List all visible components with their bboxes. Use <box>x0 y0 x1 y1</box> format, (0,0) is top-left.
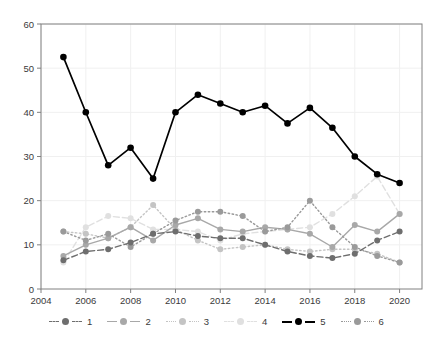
line-chart-svg: 0102030405060200420062008201020122014201… <box>0 0 433 310</box>
y-tick-label: 30 <box>23 151 34 162</box>
legend-label-5: 5 <box>320 316 325 327</box>
data-point-series-5 <box>352 153 359 160</box>
data-point-series-5 <box>307 105 314 112</box>
legend-item-3[interactable]: 3 <box>166 316 209 327</box>
data-point-series-1 <box>352 251 358 257</box>
data-point-series-6 <box>217 209 223 215</box>
data-point-series-6 <box>173 218 179 224</box>
legend-line-2 <box>130 321 140 322</box>
legend-label-1: 1 <box>87 316 92 327</box>
chart-page: 0102030405060200420062008201020122014201… <box>0 0 433 343</box>
legend-label-2: 2 <box>145 316 150 327</box>
x-tick-label: 2016 <box>299 295 320 306</box>
data-point-series-6 <box>105 231 111 237</box>
data-point-series-6 <box>195 209 201 215</box>
legend-marker-5 <box>295 318 302 325</box>
legend-marker-4 <box>237 318 244 325</box>
data-point-series-5 <box>284 120 291 127</box>
data-point-series-6 <box>285 224 291 230</box>
legend-line-6 <box>364 321 374 322</box>
legend-label-3: 3 <box>204 316 209 327</box>
legend-line-3 <box>166 321 176 322</box>
data-point-series-3 <box>83 231 89 237</box>
data-point-series-6 <box>60 229 66 235</box>
legend-label-6: 6 <box>379 316 384 327</box>
data-point-series-4 <box>105 213 111 219</box>
legend-line-1 <box>49 321 59 322</box>
data-point-series-1 <box>150 231 156 237</box>
data-point-series-4 <box>307 224 313 230</box>
data-point-series-2 <box>240 229 246 235</box>
legend-item-4[interactable]: 4 <box>224 316 267 327</box>
legend-item-1[interactable]: 1 <box>49 316 92 327</box>
x-tick-label: 2010 <box>165 295 186 306</box>
y-tick-label: 40 <box>23 107 34 118</box>
data-point-series-2 <box>128 224 134 230</box>
data-point-series-5 <box>150 175 157 182</box>
data-point-series-6 <box>352 244 358 250</box>
data-point-series-2 <box>150 237 156 243</box>
data-point-series-4 <box>128 215 134 221</box>
data-point-series-2 <box>195 215 201 221</box>
data-point-series-2 <box>374 229 380 235</box>
data-point-series-1 <box>285 249 291 255</box>
data-point-series-6 <box>83 237 89 243</box>
data-point-series-5 <box>217 100 224 107</box>
data-point-series-5 <box>239 109 246 116</box>
x-tick-label: 2006 <box>75 295 96 306</box>
series-line-6 <box>63 201 399 263</box>
x-tick-label: 2014 <box>255 295 276 306</box>
data-point-series-5 <box>60 54 67 61</box>
data-point-series-5 <box>396 180 403 187</box>
data-point-series-5 <box>127 144 134 151</box>
data-point-series-5 <box>262 102 269 109</box>
data-point-series-6 <box>307 198 313 204</box>
data-point-series-6 <box>397 260 403 266</box>
data-point-series-6 <box>374 253 380 259</box>
data-point-series-1 <box>307 253 313 259</box>
data-point-series-1 <box>105 246 111 252</box>
data-point-series-5 <box>329 125 336 132</box>
legend-marker-6 <box>354 318 361 325</box>
data-point-series-1 <box>329 255 335 261</box>
data-point-series-3 <box>150 202 156 208</box>
legend-line-2 <box>107 321 117 322</box>
data-point-series-1 <box>60 257 66 263</box>
data-point-series-1 <box>240 235 246 241</box>
legend-label-4: 4 <box>262 316 267 327</box>
data-point-series-5 <box>105 162 112 169</box>
series-line-5 <box>63 57 399 183</box>
data-point-series-2 <box>217 226 223 232</box>
legend-line-3 <box>189 321 199 322</box>
legend-line-5 <box>282 321 292 323</box>
legend-marker-2 <box>120 318 127 325</box>
data-point-series-1 <box>374 237 380 243</box>
data-point-series-3 <box>217 246 223 252</box>
data-point-series-2 <box>329 244 335 250</box>
legend-item-6[interactable]: 6 <box>341 316 384 327</box>
data-point-series-5 <box>195 91 202 98</box>
data-point-series-5 <box>172 109 179 116</box>
y-tick-label: 0 <box>29 284 34 295</box>
legend-line-1 <box>72 321 82 322</box>
data-point-series-4 <box>83 224 89 230</box>
x-tick-label: 2018 <box>344 295 365 306</box>
legend-item-5[interactable]: 5 <box>282 316 325 327</box>
data-point-series-6 <box>240 213 246 219</box>
data-point-series-1 <box>217 235 223 241</box>
x-tick-label: 2020 <box>389 295 410 306</box>
data-point-series-4 <box>352 193 358 199</box>
chart-legend: 123456 <box>0 316 433 327</box>
data-point-series-2 <box>307 231 313 237</box>
plot-area: 0102030405060200420062008201020122014201… <box>0 0 433 310</box>
legend-line-6 <box>341 321 351 322</box>
data-point-series-6 <box>262 229 268 235</box>
data-point-series-1 <box>195 233 201 239</box>
legend-item-2[interactable]: 2 <box>107 316 150 327</box>
y-tick-label: 10 <box>23 239 34 250</box>
data-point-series-4 <box>329 211 335 217</box>
x-tick-label: 2008 <box>120 295 141 306</box>
y-tick-label: 60 <box>23 19 34 30</box>
legend-line-4 <box>224 321 234 322</box>
y-tick-label: 20 <box>23 195 34 206</box>
